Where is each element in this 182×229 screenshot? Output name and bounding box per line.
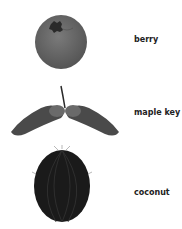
fruit-item-coconut: coconut bbox=[0, 140, 182, 229]
berry-icon bbox=[31, 10, 91, 70]
fruit-label: maple key bbox=[134, 108, 180, 117]
fruit-label: berry bbox=[134, 35, 158, 44]
coconut-icon bbox=[32, 144, 92, 224]
fruit-label: coconut bbox=[134, 188, 170, 197]
fruit-item-maple-key: maple key bbox=[0, 75, 182, 140]
maple-key-icon bbox=[5, 80, 125, 140]
fruit-item-berry: berry bbox=[0, 0, 182, 75]
